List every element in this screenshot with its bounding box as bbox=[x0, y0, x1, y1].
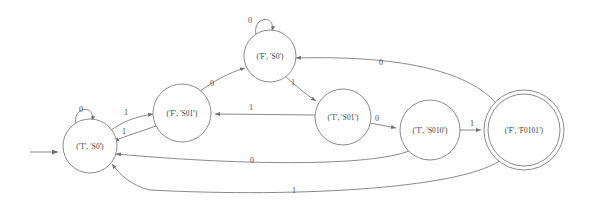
state-label-t-s0: ('T', 'S0') bbox=[76, 142, 104, 151]
state-label-t-s010: ('T', 'S010') bbox=[413, 126, 448, 135]
edge-label-f-f0101-to-t-s0: 1 bbox=[292, 186, 296, 195]
edge-label-f-f0101-to-f-s0: 0 bbox=[379, 58, 383, 67]
state-node-f-s01[interactable]: ('F', 'S01') bbox=[153, 84, 211, 142]
fsm-diagram-canvas: ('T', 'S0') ('F', 'S01') ('F', 'S0') ('T… bbox=[0, 0, 589, 207]
transition-f-f0101-to-t-s0-1 bbox=[112, 158, 503, 193]
edge-label-t-s01-to-t-s010: 0 bbox=[375, 114, 379, 123]
edge-label-f-s01-to-f-s0: 0 bbox=[210, 79, 214, 88]
edge-label-t-s0-to-f-s01: 1 bbox=[124, 108, 128, 117]
state-label-f-f0101: ('F', 'F0101') bbox=[505, 126, 544, 135]
edge-label-f-s01-to-t-s0: 1 bbox=[122, 127, 126, 136]
transition-t-s01-to-f-s01-1 bbox=[215, 114, 315, 115]
edge-label-t-s010-to-f-f0101: 1 bbox=[470, 119, 474, 128]
edge-label-f-s0-to-t-s01: 1 bbox=[291, 78, 295, 87]
transition-f-s0-to-t-s01-1 bbox=[285, 76, 316, 101]
transition-t-s010-to-t-s0-0 bbox=[116, 151, 409, 163]
edge-label-t-s010-to-t-s0: 0 bbox=[250, 156, 254, 165]
transition-f-s01-to-f-s0-0 bbox=[199, 68, 245, 92]
state-node-f-f0101[interactable]: ('F', 'F0101') bbox=[484, 90, 564, 170]
state-machine-svg: ('T', 'S0') ('F', 'S01') ('F', 'S0') ('T… bbox=[0, 0, 589, 207]
edge-label-t-s0-self: 0 bbox=[79, 105, 83, 114]
state-node-t-s01[interactable]: ('T', 'S01') bbox=[315, 89, 371, 145]
transition-f-s01-to-t-s0-1 bbox=[114, 126, 156, 141]
state-node-f-s0[interactable]: ('F', 'S0') bbox=[244, 30, 296, 82]
state-label-f-s01: ('F', 'S01') bbox=[167, 109, 198, 118]
edge-label-f-s0-self: 0 bbox=[248, 16, 252, 25]
transition-t-s01-to-t-s010-0 bbox=[370, 123, 396, 128]
state-label-f-s0: ('F', 'S0') bbox=[257, 52, 284, 61]
state-node-t-s010[interactable]: ('T', 'S010') bbox=[400, 100, 460, 160]
edge-label-t-s01-to-f-s01: 1 bbox=[249, 103, 253, 112]
state-label-t-s01: ('T', 'S01') bbox=[327, 113, 359, 122]
state-node-t-s0[interactable]: ('T', 'S0') bbox=[63, 119, 117, 173]
transition-t-s0-to-f-s01-1 bbox=[110, 114, 153, 131]
